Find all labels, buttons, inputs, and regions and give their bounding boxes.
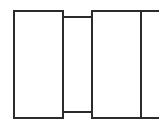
middle-segment-rect — [63, 17, 92, 112]
figure-container — [0, 0, 167, 131]
left-segment-rect — [14, 11, 63, 118]
line-drawing-svg — [0, 0, 167, 131]
right-segment-rect — [92, 11, 141, 118]
